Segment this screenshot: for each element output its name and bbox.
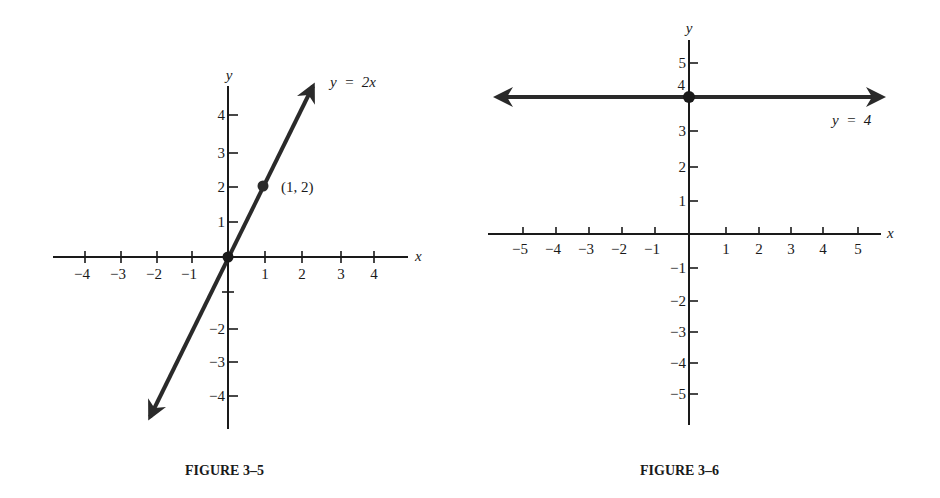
origin-point xyxy=(223,252,234,263)
point-1-2 xyxy=(258,181,269,192)
x-tick-label: −1 xyxy=(644,241,660,257)
x-tick-label: −2 xyxy=(146,266,162,282)
x-tick-label: −2 xyxy=(611,241,627,257)
figure-caption: FIGURE 3–5 xyxy=(185,463,264,478)
y-tick-label: 1 xyxy=(218,214,226,230)
x-tick-label: 2 xyxy=(755,241,763,257)
x-tick-label: −1 xyxy=(181,266,197,282)
x-ticks xyxy=(523,227,858,234)
y-tick-label: −5 xyxy=(670,386,686,402)
intercept-label: 4 xyxy=(678,77,686,93)
x-tick-label: 4 xyxy=(370,266,378,282)
y-ticks xyxy=(689,63,698,394)
x-tick-label: 1 xyxy=(722,241,730,257)
y-axis-label: y xyxy=(224,67,233,83)
y-tick-label: 4 xyxy=(218,107,226,123)
y-axis-label: y xyxy=(684,20,693,36)
x-tick-labels: −5 −4 −3 −2 −1 1 2 3 4 5 xyxy=(512,241,862,257)
figure-caption: FIGURE 3–6 xyxy=(640,463,719,478)
y-tick-label: −3 xyxy=(209,354,225,370)
x-tick-label: −3 xyxy=(110,266,126,282)
x-tick-label: −3 xyxy=(578,241,594,257)
x-tick-label: −4 xyxy=(74,266,90,282)
x-tick-label: 5 xyxy=(854,241,862,257)
figure-3-6: −5 −4 −3 −2 −1 1 2 3 4 5 5 3 2 1 −1 −2 −… xyxy=(488,20,894,478)
y-tick-label: 3 xyxy=(218,145,226,161)
figure-3-5: −4 −3 −2 −1 1 2 3 4 4 3 2 1 −2 −3 −4 y x… xyxy=(53,67,422,478)
y-tick-labels: 5 3 2 1 −1 −2 −3 −4 −5 xyxy=(670,55,686,402)
x-tick-label: 3 xyxy=(787,241,795,257)
y-tick-label: −2 xyxy=(209,321,225,337)
y-tick-label: −4 xyxy=(670,355,686,371)
x-tick-label: 2 xyxy=(298,266,306,282)
line-y-equals-2x xyxy=(150,86,313,417)
equation-label: y = 4 xyxy=(830,112,872,128)
point-0-4 xyxy=(683,91,695,103)
x-tick-label: 1 xyxy=(261,266,269,282)
y-tick-label: 3 xyxy=(679,123,687,139)
x-axis-label: x xyxy=(886,225,894,241)
x-tick-label: −5 xyxy=(512,241,528,257)
y-tick-label: 5 xyxy=(679,55,687,71)
equation-label: y = 2x xyxy=(328,74,376,90)
y-tick-label: 1 xyxy=(679,193,687,209)
x-tick-label: 3 xyxy=(337,266,345,282)
y-tick-label: 2 xyxy=(679,159,687,175)
point-label: (1, 2) xyxy=(281,179,314,196)
y-tick-label: −3 xyxy=(670,324,686,340)
y-tick-label: 2 xyxy=(218,179,226,195)
x-tick-labels: −4 −3 −2 −1 1 2 3 4 xyxy=(74,266,378,282)
figures-canvas: −4 −3 −2 −1 1 2 3 4 4 3 2 1 −2 −3 −4 y x… xyxy=(0,0,940,498)
y-tick-label: −4 xyxy=(209,388,225,404)
x-tick-label: 4 xyxy=(819,241,827,257)
y-tick-label: −2 xyxy=(670,293,686,309)
x-axis-label: x xyxy=(414,248,422,264)
y-tick-label: −1 xyxy=(670,260,686,276)
x-tick-label: −4 xyxy=(545,241,561,257)
